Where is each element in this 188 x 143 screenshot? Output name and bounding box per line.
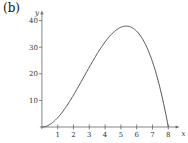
y-tick-label: 20 bbox=[29, 70, 38, 78]
y-tick-label: 10 bbox=[29, 97, 38, 105]
x-tick-label: 6 bbox=[134, 131, 139, 139]
data-curve bbox=[42, 26, 168, 127]
y-tick-label: 30 bbox=[29, 44, 38, 52]
y-tick-label: 40 bbox=[29, 17, 38, 25]
x-tick-label: 8 bbox=[166, 131, 170, 139]
x-tick-label: 4 bbox=[103, 131, 108, 139]
x-tick-label: 7 bbox=[150, 131, 154, 139]
y-axis-label: y bbox=[34, 9, 40, 17]
x-tick-label: 2 bbox=[71, 131, 75, 139]
chart: xy 1234567810203040 bbox=[0, 0, 188, 143]
x-axis-label: x bbox=[182, 130, 186, 138]
x-tick-label: 5 bbox=[119, 131, 123, 139]
ticks: 1234567810203040 bbox=[29, 17, 171, 139]
x-axis-arrow-icon bbox=[176, 125, 180, 128]
x-tick-label: 3 bbox=[87, 131, 91, 139]
x-tick-label: 1 bbox=[55, 131, 59, 139]
y-axis-arrow-icon bbox=[40, 11, 43, 15]
